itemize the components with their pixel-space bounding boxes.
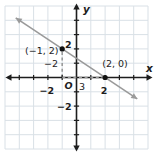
x-axis-arrow-right xyxy=(147,74,153,80)
origin-label: O xyxy=(64,80,72,91)
rise-label: −2 xyxy=(44,58,58,69)
x-axis-label: x xyxy=(145,62,154,74)
coordinate-plane: xyO−222−2(−1, 2)(2, 0)−23 xyxy=(0,0,158,160)
x-tick-label: 2 xyxy=(101,85,108,96)
x-tick-label: −2 xyxy=(40,85,55,96)
y-tick-label: −2 xyxy=(57,101,72,112)
graph-figure: xyO−222−2(−1, 2)(2, 0)−23 xyxy=(0,0,158,160)
y-axis-label: y xyxy=(83,3,91,15)
plotted-point xyxy=(103,75,108,80)
run-label: 3 xyxy=(79,81,85,92)
y-tick-label: 2 xyxy=(65,39,72,50)
point-label: (2, 0) xyxy=(102,58,128,69)
point-label: (−1, 2) xyxy=(25,45,59,56)
x-axis-arrow-left xyxy=(6,74,12,80)
